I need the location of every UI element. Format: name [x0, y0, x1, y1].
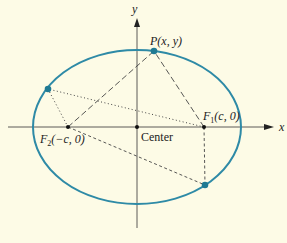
ellipse-diagram: x y P(x, y) F1(c, 0) F2(−c, 0) Center	[0, 0, 287, 243]
y-axis-arrow-icon	[134, 18, 140, 27]
point-p-label: P(x, y)	[149, 34, 182, 48]
focus-1-label: F1(c, 0)	[202, 109, 240, 125]
point-lower-right-marker	[202, 182, 209, 189]
line-f1-to-left-point	[48, 89, 204, 127]
line-f1-to-p	[154, 51, 204, 127]
y-axis-label: y	[131, 2, 138, 16]
center-label: Center	[141, 130, 173, 144]
line-f2-to-left-point	[48, 89, 68, 127]
focus-1-marker	[202, 125, 206, 129]
point-p-marker	[151, 48, 158, 55]
x-axis-arrow-icon	[264, 124, 274, 130]
point-left-marker	[45, 86, 52, 93]
x-axis-label: x	[278, 120, 285, 134]
focus-2-marker	[66, 125, 70, 129]
center-marker	[135, 125, 139, 129]
focus-2-label: F2(−c, 0)	[39, 132, 85, 148]
line-f1-to-lower-point	[204, 127, 205, 185]
line-f2-to-lower-point	[68, 127, 205, 185]
